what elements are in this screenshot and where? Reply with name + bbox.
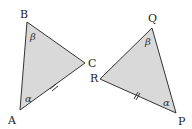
angle-label-a: α [25,93,32,104]
triangle-abc: B A C β α [7,8,96,127]
vertex-label-c: C [88,57,96,70]
angle-label-q: β [144,36,151,47]
angle-label-p: α [163,97,170,108]
angle-label-b: β [29,31,36,42]
vertex-label-p: P [178,115,186,128]
vertex-label-r: R [90,72,99,85]
triangle-pqr: Q P R β α [90,12,186,128]
vertex-label-b: B [20,8,28,21]
vertex-label-q: Q [148,12,157,25]
vertex-label-a: A [7,114,17,127]
congruent-triangles-diagram: B A C β α Q P R β α [0,0,192,129]
